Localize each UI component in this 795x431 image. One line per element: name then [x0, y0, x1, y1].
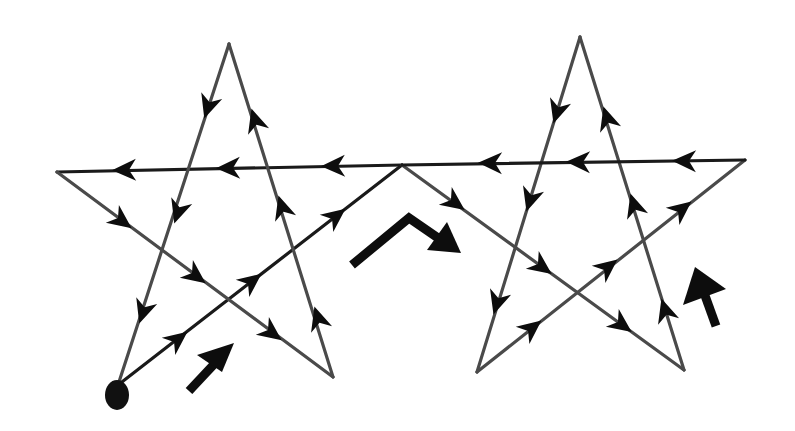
arrowhead-icon	[606, 309, 638, 341]
arrowhead-icon	[526, 251, 558, 283]
center-chevron-arrow-icon	[352, 218, 461, 265]
arrowhead-icon	[543, 97, 571, 126]
right-arrow-icon	[683, 267, 726, 326]
arrowhead-icon	[483, 288, 511, 317]
two-star-path-diagram	[0, 0, 795, 431]
arrowhead-icon	[180, 260, 212, 292]
arrowhead-icon	[651, 295, 679, 324]
arrowhead-icon	[516, 185, 544, 214]
start-point-dot	[105, 380, 129, 410]
arrowhead-icon	[320, 200, 352, 232]
left-star	[57, 44, 402, 385]
diagram-canvas	[0, 0, 795, 431]
arrowhead-icon	[129, 297, 157, 327]
arrowhead-icon	[439, 187, 471, 219]
arrowhead-icon	[620, 190, 648, 219]
lower-left-arrow-icon	[189, 343, 234, 391]
arrowhead-icon	[106, 205, 138, 237]
arrowhead-icon	[236, 265, 268, 297]
arrowhead-icon	[194, 92, 222, 122]
